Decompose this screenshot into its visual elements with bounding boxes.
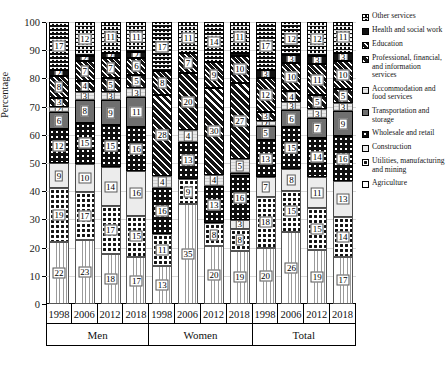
bar-total-2006[interactable]: 261581563410312	[281, 22, 301, 304]
bar-men-2012[interactable]: 181714159357211	[101, 22, 121, 304]
segment-other[interactable]: 11	[333, 22, 353, 53]
segment-professional[interactable]: 5	[101, 78, 121, 92]
segment-construction[interactable]: 11	[307, 177, 327, 208]
segment-professional[interactable]: 30	[204, 88, 224, 174]
segment-agriculture[interactable]: 35	[178, 204, 198, 304]
legend-item-agriculture[interactable]: Agriculture	[362, 179, 446, 188]
segment-wholesale[interactable]: 13	[256, 140, 276, 177]
bar-men-2018[interactable]: 1715161611356211	[126, 22, 146, 304]
segment-professional[interactable]: 5	[307, 95, 327, 109]
segment-transport[interactable]: 6	[281, 110, 301, 127]
segment-agriculture[interactable]: 18	[101, 254, 121, 304]
segment-agriculture[interactable]: 13	[152, 266, 172, 304]
segment-accommodation[interactable]: 2	[49, 107, 69, 113]
segment-wholesale[interactable]: 15	[101, 125, 121, 167]
segment-construction[interactable]: 14	[101, 167, 121, 206]
segment-agriculture[interactable]: 20	[256, 248, 276, 304]
segment-other[interactable]: 11	[101, 22, 121, 53]
segment-health[interactable]: 2	[101, 53, 121, 59]
legend-item-other[interactable]: Other services	[362, 12, 446, 21]
segment-agriculture[interactable]: 19	[230, 251, 250, 304]
segment-health[interactable]: 2	[75, 56, 95, 62]
segment-wholesale[interactable]: 15	[75, 123, 95, 165]
segment-utilities[interactable]: 11	[152, 234, 172, 266]
segment-wholesale[interactable]: 13	[178, 142, 198, 179]
segment-utilities[interactable]: 17	[101, 206, 121, 253]
bar-total-2012[interactable]: 1915111473511312	[307, 22, 327, 304]
segment-accommodation[interactable]: 3	[333, 103, 353, 111]
segment-professional[interactable]: 4	[281, 91, 301, 102]
segment-utilities[interactable]: 14	[333, 217, 353, 256]
segment-transport[interactable]: 8	[75, 100, 95, 122]
segment-professional[interactable]: 20	[178, 73, 198, 130]
bar-women-1998[interactable]: 131116428817	[152, 22, 172, 304]
segment-utilities[interactable]: 18	[256, 197, 276, 248]
segment-agriculture[interactable]: 17	[126, 257, 146, 304]
segment-agriculture[interactable]: 23	[75, 240, 95, 304]
segment-other[interactable]: 12	[307, 22, 327, 56]
segment-accommodation[interactable]: 4	[152, 176, 172, 188]
segment-utilities[interactable]: 15	[281, 191, 301, 232]
segment-other[interactable]: 17	[49, 22, 69, 70]
segment-accommodation[interactable]: 3	[75, 92, 95, 100]
segment-wholesale[interactable]: 14	[307, 138, 327, 177]
bar-women-2012[interactable]: 20813430914	[204, 22, 224, 304]
segment-professional[interactable]: 5	[333, 89, 353, 103]
segment-wholesale[interactable]: 16	[333, 136, 353, 181]
segment-construction[interactable]: 16	[126, 171, 146, 215]
legend-item-construction[interactable]: Construction	[362, 143, 446, 152]
segment-education[interactable]: 10	[333, 61, 353, 89]
segment-health[interactable]: 3	[256, 70, 276, 78]
segment-wholesale[interactable]: 12	[49, 129, 69, 163]
segment-health[interactable]: 3	[307, 56, 327, 64]
segment-other[interactable]: 11	[178, 22, 198, 53]
segment-accommodation[interactable]: 3	[281, 102, 301, 110]
segment-professional[interactable]: 3	[49, 98, 69, 106]
segment-other[interactable]: 17	[256, 22, 276, 70]
legend-item-accommodation[interactable]: Accommodation and food services	[362, 85, 446, 102]
bar-men-1998[interactable]: 22199126238217	[49, 22, 69, 304]
segment-transport[interactable]: 7	[307, 118, 327, 138]
segment-other[interactable]: 11	[230, 22, 250, 53]
segment-accommodation[interactable]: 3	[126, 88, 146, 96]
segment-utilities[interactable]: 15	[126, 216, 146, 257]
segment-wholesale[interactable]: 15	[281, 127, 301, 168]
legend-item-education[interactable]: Education	[362, 40, 446, 49]
bar-total-2018[interactable]: 1714131693510311	[333, 22, 353, 304]
segment-other[interactable]: 14	[204, 22, 224, 62]
legend-item-utilities[interactable]: Utilities, manufacturing and mining	[362, 157, 446, 174]
legend-item-wholesale[interactable]: Wholesale and retail	[362, 129, 446, 138]
segment-agriculture[interactable]: 22	[49, 242, 69, 304]
segment-professional[interactable]: 5	[126, 75, 146, 89]
segment-construction[interactable]: 3	[230, 220, 250, 228]
segment-professional[interactable]: 3	[256, 112, 276, 120]
segment-accommodation[interactable]: 5	[230, 159, 250, 173]
segment-transport[interactable]: 9	[101, 100, 121, 125]
segment-accommodation[interactable]: 3	[307, 109, 327, 117]
segment-agriculture[interactable]: 26	[281, 232, 301, 304]
segment-wholesale[interactable]: 13	[204, 186, 224, 223]
segment-education[interactable]: 6	[126, 58, 146, 75]
segment-utilities[interactable]: 19	[49, 188, 69, 242]
segment-utilities[interactable]: 15	[307, 208, 327, 250]
segment-transport[interactable]	[230, 173, 250, 176]
segment-education[interactable]: 11	[307, 64, 327, 95]
bar-women-2018[interactable]: 1983165271011	[230, 22, 250, 304]
segment-utilities[interactable]: 8	[230, 229, 250, 251]
segment-professional[interactable]: 4	[75, 81, 95, 92]
segment-accommodation[interactable]: 4	[178, 130, 198, 141]
segment-wholesale[interactable]: 16	[152, 188, 172, 235]
segment-professional[interactable]: 28	[152, 95, 172, 176]
segment-transport[interactable]: 6	[49, 112, 69, 129]
segment-health[interactable]: 2	[126, 52, 146, 58]
segment-transport[interactable]: 11	[126, 97, 146, 127]
segment-education[interactable]: 10	[230, 56, 250, 84]
segment-health[interactable]: 2	[49, 70, 69, 76]
legend-item-transport[interactable]: Transportation and storage	[362, 107, 446, 124]
segment-agriculture[interactable]: 19	[307, 250, 327, 304]
segment-education[interactable]: 8	[152, 71, 172, 94]
segment-transport[interactable]: 9	[333, 111, 353, 136]
legend-item-health[interactable]: Health and social work	[362, 26, 446, 35]
legend-item-professional[interactable]: Professional, financial, and information…	[362, 54, 446, 80]
bar-women-2006[interactable]: 35913420711	[178, 22, 198, 304]
